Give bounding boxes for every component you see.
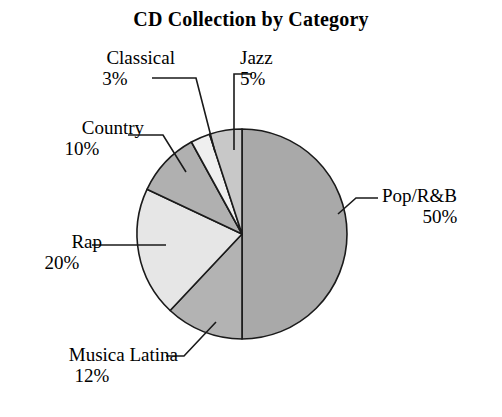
slice-label-rap-value: 20% <box>22 253 102 274</box>
slice-label-rap: Rap 20% <box>22 232 102 273</box>
slice-label-pop-rnb-name: Pop/R&B <box>382 186 498 207</box>
slice-label-jazz-name: Jazz <box>240 48 330 69</box>
slice-label-jazz: Jazz 5% <box>240 48 330 89</box>
pie-chart-figure: CD Collection by Category Classical 3% J… <box>0 0 502 417</box>
slice-label-pop-rnb: Pop/R&B 50% <box>382 186 498 227</box>
pie-slice-pop-rnb[interactable] <box>242 129 347 339</box>
slice-label-classical-value: 3% <box>55 69 175 90</box>
slice-label-musica-latina-value: 12% <box>6 366 178 387</box>
slice-label-country-name: Country <box>20 118 144 139</box>
slice-label-pop-rnb-value: 50% <box>382 207 498 228</box>
slice-label-musica-latina: Musica Latina 12% <box>6 345 178 386</box>
slice-label-musica-latina-name: Musica Latina <box>6 345 178 366</box>
slice-label-classical-name: Classical <box>55 48 175 69</box>
slice-label-country-value: 10% <box>20 139 144 160</box>
pie-slices <box>137 129 347 339</box>
slice-label-country: Country 10% <box>20 118 144 159</box>
slice-label-rap-name: Rap <box>22 232 102 253</box>
slice-label-classical: Classical 3% <box>55 48 175 89</box>
slice-label-jazz-value: 5% <box>240 69 330 90</box>
